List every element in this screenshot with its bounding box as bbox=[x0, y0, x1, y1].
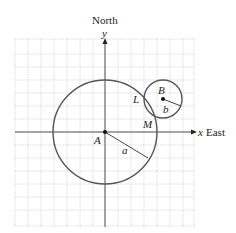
point-b-dot bbox=[161, 97, 165, 101]
north-label: North bbox=[92, 15, 118, 26]
point-b-label: B bbox=[158, 85, 165, 96]
point-l-label: L bbox=[133, 94, 139, 105]
axes bbox=[15, 43, 193, 227]
radius-b-label: b bbox=[163, 104, 169, 115]
point-m-label: M bbox=[143, 119, 152, 130]
point-a-label: A bbox=[94, 135, 101, 146]
y-axis-label: y bbox=[102, 28, 107, 39]
diagram-canvas bbox=[0, 0, 236, 233]
x-axis-label: x bbox=[198, 127, 203, 138]
radius-a-label: a bbox=[122, 145, 128, 156]
east-label: East bbox=[206, 127, 225, 138]
point-a-dot bbox=[103, 130, 107, 134]
